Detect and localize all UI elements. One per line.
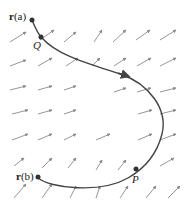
label-r-b: r(b) [16, 171, 34, 182]
point-r-a [30, 18, 35, 23]
label-r-a-arg: (a) [14, 10, 26, 22]
curve-C [32, 20, 163, 188]
label-Q: Q [33, 40, 41, 51]
label-r-a: r(a) [9, 11, 26, 22]
point-P [134, 167, 139, 172]
label-Q-text: Q [33, 39, 41, 51]
label-P-text: P [132, 173, 139, 185]
vector-field-arrows [10, 30, 180, 198]
label-P: P [132, 174, 139, 185]
label-r-b-arg: (b) [21, 170, 34, 182]
point-r-b [36, 175, 41, 180]
